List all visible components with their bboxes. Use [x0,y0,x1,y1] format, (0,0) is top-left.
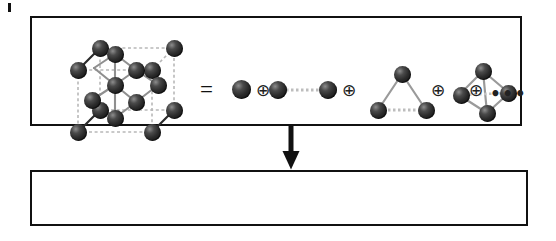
lattice-atom [70,62,87,79]
lattice-atom [166,102,183,119]
pair-cluster [269,80,337,100]
top-ellipsis: ••• [490,84,527,104]
cluster-expansion-figure: = ⊕ ⊕ ⊕ [0,0,556,241]
lattice-atom [128,94,145,111]
direct-sum-icon: ⊕ [431,82,445,99]
cluster-atom [453,87,470,104]
lattice-decomposition-panel: = ⊕ ⊕ ⊕ [30,16,522,126]
point-cluster [232,80,252,100]
energy-equation-panel: E = Π 1 · J 1 ( ) + Π 2 · [30,170,528,226]
direct-sum-icon: ⊕ [342,82,356,99]
scan-artifact-mark [8,3,11,12]
lattice-atom [70,124,87,141]
lattice-atom [144,124,161,141]
crystal-lattice [70,40,190,140]
equals-symbol: = [200,78,213,101]
cluster-atom [232,80,251,99]
cluster-atom [319,81,337,99]
lattice-atom [107,110,124,127]
lattice-atom [107,46,124,63]
lattice-atom [150,77,167,94]
cluster-atom [269,81,287,99]
downward-arrow [281,126,301,170]
lattice-atom [84,92,101,109]
direct-sum-icon: ⊕ [469,82,483,99]
cluster-atom [370,102,387,119]
lattice-atom [166,40,183,57]
cluster-atom [475,63,492,80]
lattice-atom [128,62,145,79]
cluster-atom [394,66,411,83]
lattice-atom [107,77,124,94]
cluster-atom [479,105,496,122]
cluster-atom [418,102,435,119]
triangle-cluster [369,64,435,120]
